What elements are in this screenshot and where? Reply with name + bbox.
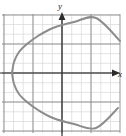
y-axis-label: y: [57, 1, 62, 11]
x-axis-label: x: [117, 69, 122, 79]
y-axis-arrow-icon: [59, 12, 66, 20]
axes-group: [0, 12, 120, 136]
parabola-curve-upper-branch: [12, 17, 120, 73]
parabola-curve-lower-branch: [12, 73, 118, 129]
graph-canvas: x y: [0, 0, 126, 136]
parabola-figure: x y: [0, 0, 126, 136]
